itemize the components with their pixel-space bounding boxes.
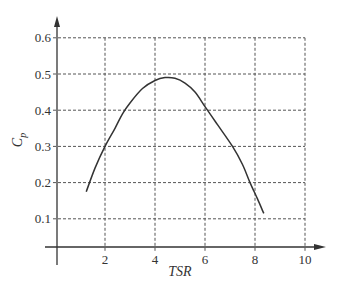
grid-lines xyxy=(53,38,305,252)
tick-labels: 2468100.10.20.30.40.50.6 xyxy=(35,30,312,267)
x-tick-label: 2 xyxy=(102,252,109,267)
x-tick-label: 4 xyxy=(152,252,159,267)
y-tick-label: 0.3 xyxy=(35,139,51,154)
y-axis-label: Cp xyxy=(10,133,28,147)
x-tick-label: 6 xyxy=(202,252,209,267)
y-axis-label-sub: p xyxy=(17,133,28,139)
y-tick-label: 0.2 xyxy=(35,175,51,190)
y-tick-label: 0.5 xyxy=(35,67,51,82)
svg-text:Cp: Cp xyxy=(10,133,28,147)
y-tick-label: 0.6 xyxy=(35,30,52,45)
x-tick-label: 10 xyxy=(299,252,312,267)
x-axis-arrow-icon xyxy=(314,244,326,250)
cp-curve xyxy=(86,77,264,213)
y-tick-label: 0.1 xyxy=(35,211,51,226)
y-axis-arrow-icon xyxy=(54,16,60,27)
y-tick-label: 0.4 xyxy=(35,103,52,118)
cp-tsr-chart: 2468100.10.20.30.40.50.6 TSR Cp xyxy=(0,0,340,292)
x-tick-label: 8 xyxy=(252,252,259,267)
axes xyxy=(45,16,326,265)
x-axis-label: TSR xyxy=(168,264,192,279)
